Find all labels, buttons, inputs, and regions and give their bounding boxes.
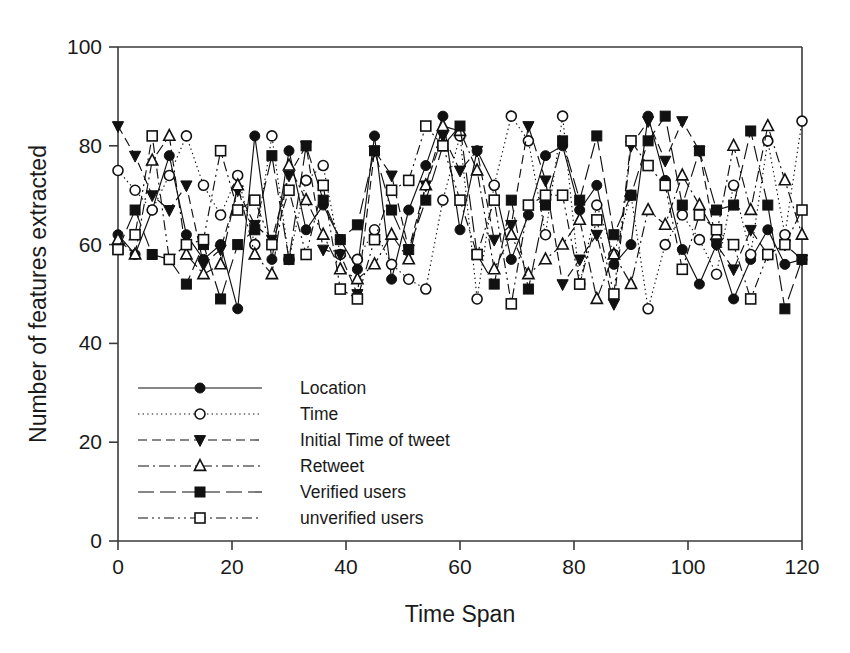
data-point-marker — [763, 200, 773, 210]
data-point-marker — [147, 249, 157, 259]
data-point-marker — [712, 269, 722, 279]
data-point-marker — [609, 289, 619, 299]
data-point-marker — [643, 136, 653, 146]
data-point-marker — [438, 195, 448, 205]
data-point-marker — [318, 180, 328, 190]
data-point-marker — [421, 195, 431, 205]
x-tick-label: 100 — [670, 555, 705, 578]
data-point-marker — [404, 175, 414, 185]
data-point-marker — [523, 284, 533, 294]
data-point-marker — [694, 279, 704, 289]
data-point-marker — [421, 121, 431, 131]
data-point-marker — [643, 304, 653, 314]
data-point-marker — [216, 294, 226, 304]
data-point-marker — [335, 284, 345, 294]
data-point-marker — [147, 131, 157, 141]
data-point-marker — [370, 235, 380, 245]
data-point-marker — [284, 254, 294, 264]
data-point-marker — [763, 225, 773, 235]
data-point-marker — [438, 141, 448, 151]
data-point-marker — [164, 170, 174, 180]
data-point-marker — [147, 205, 157, 215]
y-tick-label: 100 — [67, 35, 102, 58]
legend-marker-sample — [195, 513, 205, 523]
data-point-marker — [181, 131, 191, 141]
data-point-marker — [626, 190, 636, 200]
data-point-marker — [729, 240, 739, 250]
data-point-marker — [421, 161, 431, 171]
data-point-marker — [199, 180, 209, 190]
data-point-marker — [763, 249, 773, 259]
data-point-marker — [267, 254, 277, 264]
data-point-marker — [694, 235, 704, 245]
data-point-marker — [541, 200, 551, 210]
data-point-marker — [421, 284, 431, 294]
data-point-marker — [592, 131, 602, 141]
data-point-marker — [677, 210, 687, 220]
data-point-marker — [267, 151, 277, 161]
data-point-marker — [541, 190, 551, 200]
data-point-marker — [780, 259, 790, 269]
data-point-marker — [370, 146, 380, 156]
data-point-marker — [660, 240, 670, 250]
data-point-marker — [541, 151, 551, 161]
data-point-marker — [506, 195, 516, 205]
data-point-marker — [318, 195, 328, 205]
data-point-marker — [113, 245, 123, 255]
data-point-marker — [489, 180, 499, 190]
data-point-marker — [523, 200, 533, 210]
data-point-marker — [267, 131, 277, 141]
data-point-marker — [216, 210, 226, 220]
data-point-marker — [643, 161, 653, 171]
data-point-marker — [558, 190, 568, 200]
data-point-marker — [181, 279, 191, 289]
x-axis-title: Time Span — [405, 601, 515, 627]
x-tick-label: 120 — [784, 555, 819, 578]
x-tick-label: 20 — [220, 555, 243, 578]
x-tick-label: 40 — [334, 555, 357, 578]
data-point-marker — [558, 111, 568, 121]
data-point-marker — [506, 111, 516, 121]
data-point-marker — [592, 180, 602, 190]
data-point-marker — [301, 225, 311, 235]
data-point-marker — [301, 249, 311, 259]
data-point-marker — [387, 205, 397, 215]
y-tick-label: 80 — [79, 134, 102, 157]
data-point-marker — [780, 304, 790, 314]
data-point-marker — [506, 254, 516, 264]
data-point-marker — [780, 230, 790, 240]
data-point-marker — [660, 111, 670, 121]
data-point-marker — [233, 240, 243, 250]
data-point-marker — [609, 230, 619, 240]
data-point-marker — [626, 136, 636, 146]
legend-marker-sample — [195, 487, 205, 497]
data-point-marker — [575, 279, 585, 289]
data-point-marker — [575, 195, 585, 205]
legend-label: unverified users — [300, 508, 424, 528]
data-point-marker — [746, 126, 756, 136]
data-point-marker — [472, 294, 482, 304]
figure-background — [0, 0, 850, 653]
data-point-marker — [677, 200, 687, 210]
data-point-marker — [199, 235, 209, 245]
data-point-marker — [780, 240, 790, 250]
data-point-marker — [455, 195, 465, 205]
data-point-marker — [729, 294, 739, 304]
data-point-marker — [130, 205, 140, 215]
data-point-marker — [746, 294, 756, 304]
x-tick-label: 60 — [448, 555, 471, 578]
data-point-marker — [267, 240, 277, 250]
chart-figure: 020406080100 020406080100120 Number of f… — [0, 0, 850, 653]
data-point-marker — [130, 185, 140, 195]
data-point-marker — [489, 195, 499, 205]
data-point-marker — [797, 116, 807, 126]
data-point-marker — [660, 180, 670, 190]
data-point-marker — [181, 230, 191, 240]
y-tick-label: 0 — [90, 529, 102, 552]
data-point-marker — [558, 136, 568, 146]
data-point-marker — [301, 141, 311, 151]
data-point-marker — [746, 249, 756, 259]
data-point-marker — [506, 299, 516, 309]
data-point-marker — [797, 205, 807, 215]
legend-label: Initial Time of tweet — [300, 430, 450, 450]
